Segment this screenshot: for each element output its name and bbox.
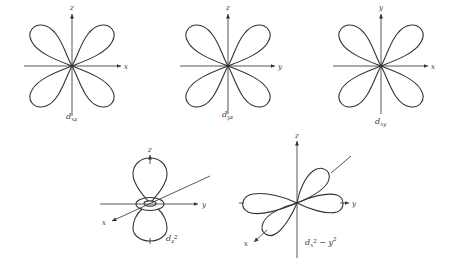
axis-label-x: x [244,240,248,248]
axis-label-x: x [102,219,106,227]
x-axis-far [331,156,351,173]
x-axis [112,176,210,221]
axis-label-z: z [147,146,152,154]
upper-lobe [133,158,167,201]
orbital-dx2-y2: y z x dx2 − y2 [239,132,357,258]
caption-dxy: dxy [375,117,387,128]
lobe-back-x [297,168,329,203]
caption-dz2: dz2 [166,234,178,244]
axis-label-y: y [201,201,207,209]
axis-label-y: y [351,200,357,208]
axis-label-v: z [69,4,74,12]
lower-lobe [133,209,167,241]
axis-label-h: y [277,63,283,71]
caption-dx2-y2: dx2 − y2 [305,236,337,248]
axis-label-v: y [378,4,384,12]
orbital-dxz: x z dxz [24,4,128,122]
d-orbital-diagrams: x z dxz y z dyz x y dxy [0,0,456,265]
orbital-dxy: x y dxy [333,4,435,128]
axis-label-h: x [431,63,435,71]
lobe-neg-y [243,194,297,214]
axis-label-v: z [225,4,230,12]
lobe-front-x [262,203,297,235]
axis-label-h: x [124,63,128,71]
orbital-dyz: y z dyz [180,4,283,121]
orbital-dz2: y z x dz2 [100,146,210,244]
axis-label-z: z [294,132,299,140]
lobe-pos-y [297,194,343,213]
x-axis [254,230,267,242]
